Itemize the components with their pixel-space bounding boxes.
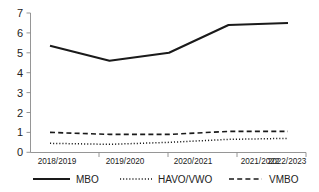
x-tick-label-2019-2020: 2019/2020 bbox=[106, 157, 145, 166]
chart-canvas: 7 6 5 4 3 2 1 0 2018/2019 2019/2020 2020… bbox=[0, 0, 319, 192]
y-tick-label-2: 2 bbox=[17, 107, 23, 119]
legend-label-havovwo: HAVO/VWO bbox=[158, 174, 212, 185]
y-tick-label-1: 1 bbox=[17, 126, 23, 138]
x-tick-labels: 2018/2019 2019/2020 2020/2021 2021/2022 … bbox=[38, 157, 307, 166]
x-tick-label-2022-2023: 2022/2023 bbox=[268, 157, 307, 166]
y-axis bbox=[27, 13, 31, 153]
y-tick-label-6: 6 bbox=[17, 27, 23, 39]
y-tick-label-7: 7 bbox=[17, 7, 23, 19]
plot-area bbox=[50, 23, 288, 144]
y-tick-label-3: 3 bbox=[17, 87, 23, 99]
series-line-vmbo bbox=[50, 131, 288, 134]
legend-label-mbo: MBO bbox=[76, 174, 99, 185]
y-tick-label-5: 5 bbox=[17, 47, 23, 59]
legend-label-vmbo: VMBO bbox=[269, 174, 299, 185]
y-tick-label-4: 4 bbox=[17, 67, 23, 79]
y-tick-labels: 7 6 5 4 3 2 1 0 bbox=[17, 7, 23, 158]
series-line-havovwo bbox=[50, 138, 288, 144]
line-chart: 7 6 5 4 3 2 1 0 2018/2019 2019/2020 2020… bbox=[0, 0, 319, 192]
x-tick-label-2018-2019: 2018/2019 bbox=[38, 157, 77, 166]
x-tick-label-2020-2021: 2020/2021 bbox=[174, 157, 213, 166]
chart-legend: MBO HAVO/VWO VMBO bbox=[33, 174, 299, 185]
y-tick-label-0: 0 bbox=[17, 146, 23, 158]
series-line-mbo bbox=[50, 23, 288, 61]
